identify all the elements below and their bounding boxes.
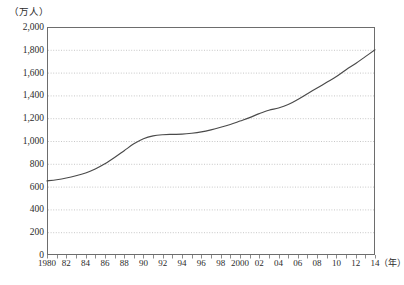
x-tick-label: 90	[139, 258, 148, 269]
y-tick-label: 1,200	[2, 113, 44, 123]
x-tick-label: 2000	[231, 258, 249, 269]
x-tick-label: 82	[62, 258, 71, 269]
x-tick-label: 94	[178, 258, 187, 269]
y-tick-label: 1,000	[2, 136, 44, 146]
y-tick-label: 600	[2, 182, 44, 192]
y-tick-label: 1,400	[2, 90, 44, 100]
x-tick-label: 96	[197, 258, 206, 269]
x-tick-label: 86	[100, 258, 109, 269]
y-tick-label: 200	[2, 227, 44, 237]
x-tick-label: 02	[255, 258, 264, 269]
x-tick-label: 04	[274, 258, 283, 269]
y-tick-label: 800	[2, 159, 44, 169]
x-tick-label: 1980	[38, 258, 56, 269]
x-tick-label: 14	[371, 258, 380, 269]
x-tick-label: 10	[332, 258, 341, 269]
y-tick-label: 1,600	[2, 68, 44, 78]
y-axis-tick-labels: 02004006008001,0001,2001,4001,6001,8002,…	[0, 0, 44, 285]
x-tick-label: 88	[120, 258, 129, 269]
y-tick-label: 2,000	[2, 22, 44, 32]
x-tick-label: 98	[216, 258, 225, 269]
x-tick-label: 92	[158, 258, 167, 269]
x-tick-label: 84	[81, 258, 90, 269]
y-tick-label: 1,800	[2, 45, 44, 55]
x-tick-label: 06	[293, 258, 302, 269]
x-tick-label: 12	[351, 258, 360, 269]
x-tick-label: 08	[313, 258, 322, 269]
x-axis-unit-label: （年）	[379, 258, 404, 269]
y-tick-label: 400	[2, 204, 44, 214]
x-axis-tick-labels: （年） 198082848688909294969820000204060810…	[0, 258, 404, 274]
data-series-line	[0, 0, 404, 285]
line-chart: （万人） 02004006008001,0001,2001,4001,6001,…	[0, 0, 404, 285]
